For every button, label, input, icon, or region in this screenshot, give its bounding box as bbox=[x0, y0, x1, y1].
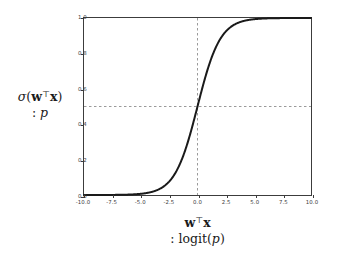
x-label-w-vector: w bbox=[184, 215, 195, 230]
figure-canvas: -10.0-7.5-5.0-2.50.02.55.07.510.0 0.00.2… bbox=[0, 0, 341, 265]
x-tick-mark bbox=[227, 195, 228, 198]
y-tick-label: 0.0 bbox=[78, 193, 87, 199]
y-tick-label: 0.6 bbox=[78, 86, 87, 92]
x-label-transpose: ⊤ bbox=[195, 215, 203, 225]
plot-axes-area bbox=[83, 17, 312, 196]
x-axis-label-line-2: : logit(p) bbox=[83, 231, 312, 247]
x-tick-label: 7.5 bbox=[279, 199, 288, 205]
x-tick-label: -7.5 bbox=[106, 199, 117, 205]
x-tick-label: -10.0 bbox=[76, 199, 90, 205]
x-label-colon: : bbox=[170, 231, 174, 246]
x-label-p-symbol: p bbox=[212, 231, 220, 246]
y-axis-label: σ(w⊤x) : p bbox=[4, 89, 76, 121]
x-label-close-paren: ) bbox=[220, 231, 225, 246]
y-label-w-vector: w bbox=[31, 89, 42, 104]
x-axis-label-line-1: w⊤x bbox=[83, 215, 312, 231]
x-tick-mark bbox=[199, 195, 200, 198]
x-label-x-vector: x bbox=[203, 215, 210, 230]
y-label-p-symbol: p bbox=[40, 105, 48, 120]
x-tick-label: -5.0 bbox=[135, 199, 146, 205]
x-tick-mark bbox=[141, 195, 142, 198]
x-tick-mark bbox=[313, 195, 314, 198]
x-tick-label: 5.0 bbox=[250, 199, 259, 205]
y-label-colon: : bbox=[32, 105, 36, 120]
x-tick-label: 0.0 bbox=[193, 199, 202, 205]
y-axis-label-line-2: : p bbox=[4, 105, 76, 121]
x-label-logit-open: logit( bbox=[178, 231, 211, 246]
x-tick-mark bbox=[170, 195, 171, 198]
x-tick-label: 2.5 bbox=[222, 199, 231, 205]
y-tick-label: 0.8 bbox=[78, 50, 87, 56]
sigma-symbol: σ bbox=[18, 89, 27, 104]
y-tick-label: 1.0 bbox=[78, 14, 87, 20]
y-label-close-paren: ) bbox=[57, 89, 62, 104]
x-tick-mark bbox=[284, 195, 285, 198]
y-label-transpose: ⊤ bbox=[42, 89, 50, 99]
x-tick-mark bbox=[256, 195, 257, 198]
y-axis-label-line-1: σ(w⊤x) bbox=[4, 89, 76, 105]
y-tick-label: 0.2 bbox=[78, 157, 87, 163]
y-tick-label: 0.4 bbox=[78, 121, 87, 127]
x-tick-label: 10.0 bbox=[306, 199, 318, 205]
sigmoid-plot-svg bbox=[84, 18, 311, 195]
x-tick-label: -2.5 bbox=[163, 199, 174, 205]
x-axis-label: w⊤x : logit(p) bbox=[83, 215, 312, 248]
x-tick-mark bbox=[113, 195, 114, 198]
